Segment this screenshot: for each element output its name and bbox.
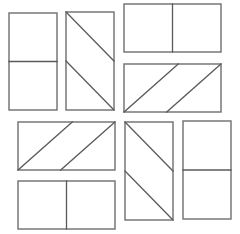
shape-4-outline [124,64,221,112]
vertical-rectangle-horizontal-split-bottom-shaded [183,121,231,219]
vertical-rectangle-horizontal-split-top-shaded [9,13,57,110]
horizontal-rectangle-vertical-split-left-shaded [18,181,115,229]
shape-7-outline [125,122,173,220]
shape-5-outline [18,122,115,170]
horizontal-rectangle-vertical-split-right-shaded [124,4,221,52]
horizontal-rectangle-diagonal-band-shaded-lower-left [18,122,115,170]
horizontal-rectangle-diagonal-band-shaded [124,64,221,112]
figure-canvas [0,0,240,234]
halves-diagram [0,0,240,234]
vertical-rectangle-diagonal-band-shaded [66,12,114,110]
shape-2-outline [66,12,114,110]
vertical-rectangle-diagonal-band-shaded-lower-right [125,122,173,220]
